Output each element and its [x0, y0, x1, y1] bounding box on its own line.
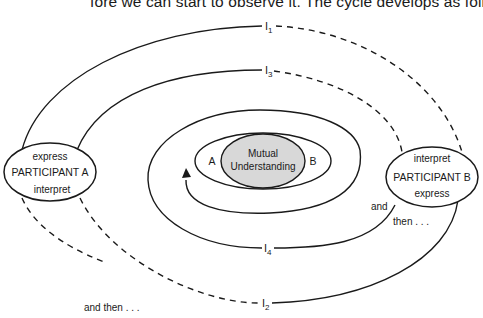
- loop-i1-dashed: [276, 26, 462, 152]
- participant-b-name: PARTICIPANT B: [393, 171, 470, 183]
- center-label-line2: Understanding: [230, 161, 295, 172]
- loop-label-i2: I2: [262, 297, 270, 312]
- center-label-a: A: [208, 155, 215, 167]
- loop-label-i3: I3: [265, 64, 273, 79]
- center-label-line1: Mutual: [248, 148, 278, 159]
- convergence-diagram: express PARTICIPANT A interpret interpre…: [0, 0, 483, 318]
- participant-a-name: PARTICIPANT A: [12, 166, 89, 178]
- loop-label-i4: I4: [264, 242, 272, 257]
- annotation-b-then: then . . .: [393, 216, 429, 227]
- loop-i2-solid: [272, 200, 458, 303]
- participant-a-bottom-label: interpret: [34, 184, 71, 195]
- participant-b-top-label: interpret: [414, 153, 451, 164]
- annotation-b-and: and: [371, 201, 388, 212]
- loop-i2-dashed: [22, 198, 104, 262]
- loop-i2-dashed-b: [80, 198, 258, 303]
- loop-i1-solid: [22, 26, 262, 150]
- loop-label-i1: I1: [265, 20, 273, 35]
- center-label-b: B: [309, 155, 316, 167]
- participant-a-top-label: express: [32, 151, 67, 162]
- arrowhead-icon: [182, 168, 191, 178]
- participant-b-bottom-label: express: [414, 188, 449, 199]
- annotation-a-and-then: and then . . .: [84, 302, 140, 313]
